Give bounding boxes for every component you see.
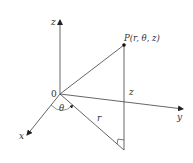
- origin-to-point-line: [60, 45, 124, 94]
- cylindrical-coordinates-diagram: z y x 0 P(r, θ, z) z r θ: [0, 0, 193, 163]
- x-axis: [27, 94, 60, 135]
- height-label: z: [128, 87, 134, 97]
- point-p-dot: [122, 43, 126, 47]
- radius-label: r: [97, 113, 102, 123]
- origin-label: 0: [51, 89, 57, 99]
- z-axis-label: z: [50, 17, 56, 27]
- x-axis-label: x: [19, 131, 24, 141]
- point-label: P(r, θ, z): [123, 33, 160, 43]
- theta-label: θ: [59, 103, 64, 113]
- y-axis: [60, 94, 183, 109]
- y-axis-label: y: [176, 112, 183, 122]
- radius-line: [60, 94, 124, 150]
- right-angle-marker: [117, 139, 124, 144]
